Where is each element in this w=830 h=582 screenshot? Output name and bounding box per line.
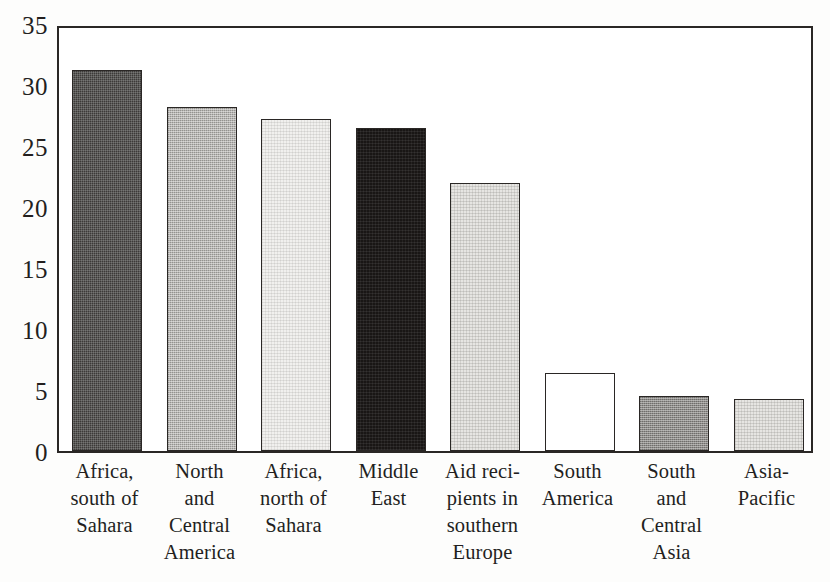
y-tick-label: 5 [4,379,48,404]
x-axis-category-label: Asia-Pacific [711,458,822,512]
y-axis: 05101520253035 [0,0,48,582]
x-axis-category-line: Asia- [711,458,822,485]
y-tick-label: 10 [4,318,48,343]
bar [450,183,520,451]
x-axis-category-line: America [144,539,255,566]
bar [167,107,237,451]
y-tick-label: 15 [4,257,48,282]
x-axis-category-line: Europe [427,539,538,566]
bar [639,396,709,451]
x-axis-category-line: Sahara [238,512,349,539]
plot-area [57,26,813,453]
bar [261,119,331,451]
x-axis: Africa,south ofSaharaNorthandCentralAmer… [57,458,813,582]
bar [545,373,615,451]
x-axis-category-line: Asia [616,539,727,566]
y-tick-label: 30 [4,74,48,99]
plot-inner [59,28,811,451]
y-tick-label: 35 [4,13,48,38]
bar [72,70,142,451]
bar [734,399,804,451]
x-axis-category-line: Central [616,512,727,539]
y-tick-label: 0 [4,440,48,465]
bar-chart: 05101520253035 Africa,south ofSaharaNort… [0,0,830,582]
y-tick-label: 25 [4,135,48,160]
x-axis-category-line: Pacific [711,485,822,512]
x-axis-category-line: southern [427,512,538,539]
bar [356,128,426,451]
y-tick-label: 20 [4,196,48,221]
